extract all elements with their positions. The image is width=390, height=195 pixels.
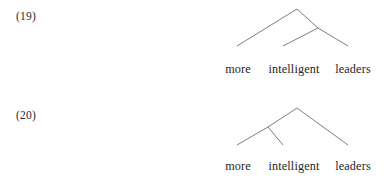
- branch-node-left-19: [283, 28, 318, 46]
- example-number-20: (20): [16, 109, 36, 121]
- example-19: (19) more intelligent leaders: [0, 0, 390, 97]
- tree-lines-20: [210, 97, 390, 194]
- tree-leaf-intelligent-20: intelligent: [263, 159, 325, 174]
- example-number-19: (19): [16, 10, 36, 22]
- tree-leaf-intelligent-19: intelligent: [263, 62, 325, 77]
- tree-leaf-more-19: more: [215, 62, 261, 77]
- tree-leaf-more-20: more: [215, 159, 261, 174]
- branch-node-left-20: [237, 127, 268, 145]
- page-canvas: (19) more intelligent leaders (20): [0, 0, 390, 195]
- tree-lines-19: [210, 0, 390, 97]
- branch-node-right-19: [318, 28, 348, 46]
- example-20: (20) more intelligent leaders: [0, 97, 390, 194]
- tree-diagram-20: more intelligent leaders: [210, 97, 390, 194]
- tree-leaf-leaders-19: leaders: [329, 62, 377, 77]
- tree-leaf-leaders-20: leaders: [329, 159, 377, 174]
- branch-root-left-19: [237, 9, 297, 46]
- branch-root-left-20: [268, 108, 297, 127]
- branch-root-right-20: [297, 108, 348, 145]
- branch-root-right-19: [297, 9, 318, 28]
- branch-node-right-20: [268, 127, 283, 145]
- tree-leaf-labels-20: more intelligent leaders: [210, 159, 390, 174]
- tree-diagram-19: more intelligent leaders: [210, 0, 390, 97]
- tree-leaf-labels-19: more intelligent leaders: [210, 62, 390, 77]
